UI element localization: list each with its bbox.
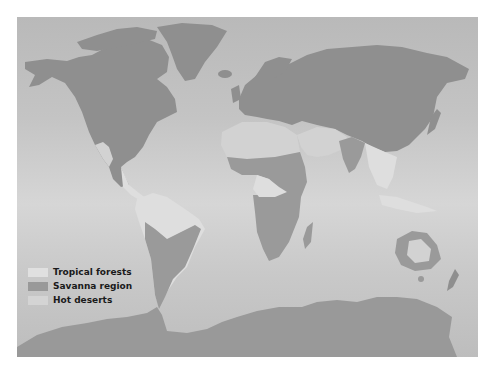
india: [339, 137, 365, 173]
legend-label: Tropical forests: [53, 267, 132, 277]
hot-deserts-swatch: [28, 296, 48, 305]
world-map: Tropical forests Savanna region Hot dese…: [17, 17, 478, 357]
new-zealand: [447, 269, 459, 291]
legend-label: Savanna region: [53, 281, 132, 291]
tasmania: [418, 276, 424, 282]
map-legend: Tropical forests Savanna region Hot dese…: [28, 265, 132, 307]
north-america: [25, 39, 177, 187]
indonesia: [379, 195, 437, 213]
central-america: [121, 167, 147, 201]
savanna-region-swatch: [28, 282, 48, 291]
africa-sahara: [221, 122, 300, 159]
tropical-forests-swatch: [28, 268, 48, 277]
legend-item-savanna-region: Savanna region: [28, 279, 132, 293]
legend-item-hot-deserts: Hot deserts: [28, 293, 132, 307]
africa-savanna: [227, 152, 307, 261]
legend-label: Hot deserts: [53, 295, 112, 305]
greenland: [157, 23, 227, 81]
madagascar: [303, 222, 313, 249]
iceland: [218, 70, 232, 78]
legend-item-tropical-forests: Tropical forests: [28, 265, 132, 279]
